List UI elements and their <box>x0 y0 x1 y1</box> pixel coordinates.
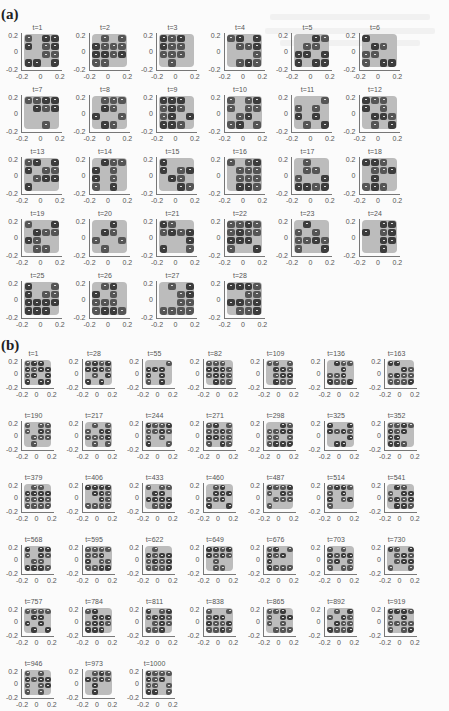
occupied-cell <box>341 547 347 552</box>
x-axis <box>203 636 236 637</box>
x-tick-label: 0 <box>106 259 110 266</box>
occupied-cell <box>146 373 152 378</box>
y-tick-label: 0.2 <box>72 32 86 39</box>
occupied-cell <box>25 221 33 228</box>
y-tick-label: 0 <box>4 680 18 687</box>
occupied-cell <box>85 503 91 508</box>
occupied-cell <box>42 167 50 174</box>
x-tick-label: -0.2 <box>77 515 89 522</box>
x-axis <box>21 70 62 71</box>
y-tick-label: 0 <box>342 48 356 55</box>
occupied-cell <box>105 361 111 366</box>
y-tick-label: -0.2 <box>125 570 139 577</box>
x-tick-label: -0.2 <box>286 197 298 204</box>
occupied-cell <box>51 43 59 50</box>
occupied-cell <box>25 299 33 306</box>
y-tick-label: -0.2 <box>4 446 18 453</box>
y-tick-label: -0.2 <box>246 508 260 515</box>
y-tick-label: -0.2 <box>246 570 260 577</box>
y-axis <box>82 421 83 450</box>
y-tick-label: 0.2 <box>4 606 18 613</box>
occupied-cell <box>273 547 279 552</box>
frame-tile: t=2710.20-0.2-0.200.2 <box>186 412 243 474</box>
x-tick-label: 0 <box>277 577 281 584</box>
occupied-cell <box>160 113 168 120</box>
occupied-cell <box>380 221 388 228</box>
occupancy-plot <box>327 608 354 633</box>
occupied-cell <box>110 307 118 314</box>
occupied-cell <box>166 429 172 434</box>
occupied-cell <box>25 183 33 190</box>
y-axis <box>82 483 83 512</box>
y-tick-label: 0 <box>367 494 381 501</box>
occupied-cell <box>280 373 286 378</box>
x-tick-label: -0.2 <box>84 73 96 80</box>
occupied-cell <box>45 565 51 570</box>
frame-title: t=325 <box>321 412 352 420</box>
x-tick-label: -0.2 <box>354 259 366 266</box>
x-tick-label: 0.2 <box>350 577 360 584</box>
x-axis <box>324 574 357 575</box>
occupied-cell <box>159 423 165 428</box>
y-tick-label: 0 <box>72 234 86 241</box>
y-tick-label: 0 <box>207 48 221 55</box>
occupied-cell <box>92 683 98 688</box>
occupancy-plot <box>24 484 51 509</box>
occupied-cell <box>273 609 279 614</box>
occupied-cell <box>31 565 37 570</box>
occupied-cell <box>388 221 396 228</box>
occupied-cell <box>267 615 273 620</box>
x-tick-label: -0.2 <box>137 515 149 522</box>
x-tick-label: 0 <box>337 639 341 646</box>
frame-title: t=24 <box>356 210 395 218</box>
occupied-cell <box>408 491 414 496</box>
frame-tile: t=160.20-0.2-0.200.2 <box>207 148 272 210</box>
x-tick-label: 0.2 <box>168 391 178 398</box>
occupied-cell <box>347 485 353 490</box>
panel-a-label: (a) <box>1 6 19 23</box>
x-tick-label: 0 <box>39 135 43 142</box>
frame-tile: t=3250.20-0.2-0.200.2 <box>307 412 364 474</box>
frame-title: t=595 <box>79 536 110 544</box>
occupancy-plot <box>387 422 414 447</box>
x-axis <box>89 318 130 319</box>
occupied-cell <box>371 167 379 174</box>
x-tick-label: -0.2 <box>16 135 28 142</box>
occupied-cell <box>152 683 158 688</box>
x-tick-label: -0.2 <box>319 453 331 460</box>
frame-title: t=5 <box>288 24 327 32</box>
occupancy-plot <box>362 220 397 253</box>
occupied-cell <box>99 627 105 632</box>
frame-tile: t=110.20-0.2-0.200.2 <box>274 86 339 148</box>
occupied-cell <box>85 565 91 570</box>
x-axis <box>21 318 62 319</box>
occupied-cell <box>25 291 33 298</box>
occupied-cell <box>334 485 340 490</box>
y-tick-label: 0.2 <box>65 606 79 613</box>
frame-title: t=1 <box>18 350 49 358</box>
occupied-cell <box>401 485 407 490</box>
occupied-cell <box>220 485 226 490</box>
occupied-cell <box>312 35 320 42</box>
frame-title: t=21 <box>153 210 192 218</box>
occupied-cell <box>92 503 98 508</box>
x-axis <box>156 132 197 133</box>
frame-tile: t=90.20-0.2-0.200.2 <box>139 86 204 148</box>
frame-tile: t=250.20-0.2-0.200.2 <box>4 272 69 334</box>
y-tick-label: 0 <box>65 370 79 377</box>
y-tick-label: -0.2 <box>342 252 356 259</box>
y-tick-label: -0.2 <box>274 190 288 197</box>
occupied-cell <box>206 621 212 626</box>
occupied-cell <box>105 565 111 570</box>
frame-tile: t=270.20-0.2-0.200.2 <box>139 272 204 334</box>
occupied-cell <box>33 299 41 306</box>
occupied-cell <box>177 229 185 236</box>
occupancy-plot <box>227 158 262 191</box>
frame-title: t=27 <box>153 272 192 280</box>
occupied-cell <box>327 615 333 620</box>
occupied-cell <box>213 553 219 558</box>
y-axis <box>21 95 22 132</box>
x-tick-label: -0.2 <box>137 453 149 460</box>
occupied-cell <box>186 183 194 190</box>
y-tick-label: 0.2 <box>307 420 321 427</box>
